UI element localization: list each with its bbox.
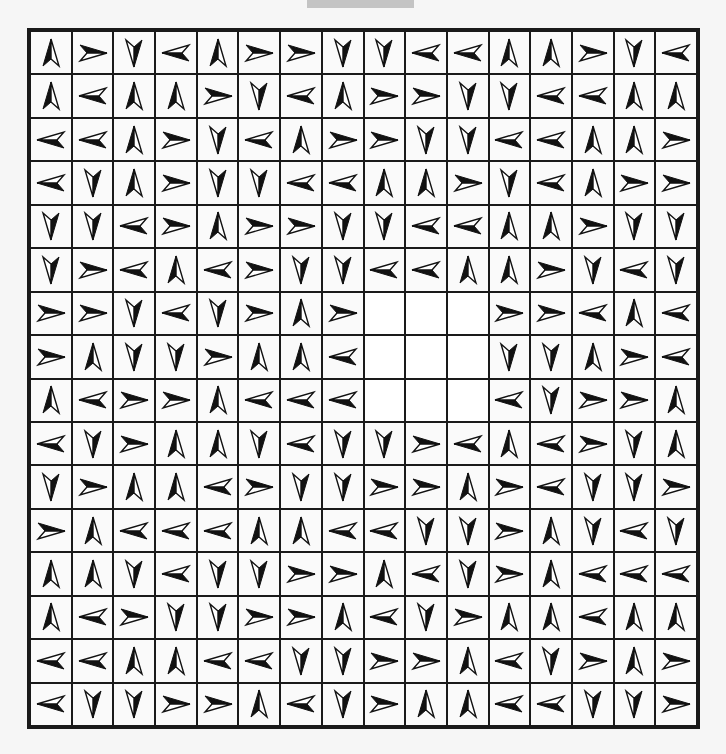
grid-cell[interactable] [490,206,530,247]
empty-cell[interactable] [448,336,488,377]
grid-cell[interactable] [31,32,71,73]
grid-cell[interactable] [365,684,405,725]
grid-cell[interactable] [615,640,655,681]
grid-cell[interactable] [323,380,363,421]
grid-cell[interactable] [239,119,279,160]
grid-cell[interactable] [656,640,696,681]
grid-cell[interactable] [198,466,238,507]
grid-cell[interactable] [656,119,696,160]
grid-cell[interactable] [198,206,238,247]
grid-cell[interactable] [573,32,613,73]
grid-cell[interactable] [573,75,613,116]
grid-cell[interactable] [656,380,696,421]
grid-cell[interactable] [406,510,446,551]
grid-cell[interactable] [406,162,446,203]
grid-cell[interactable] [490,32,530,73]
grid-cell[interactable] [239,380,279,421]
grid-cell[interactable] [656,206,696,247]
grid-cell[interactable] [365,206,405,247]
grid-cell[interactable] [490,249,530,290]
grid-cell[interactable] [406,119,446,160]
grid-cell[interactable] [323,75,363,116]
grid-cell[interactable] [656,597,696,638]
grid-cell[interactable] [615,553,655,594]
grid-cell[interactable] [531,293,571,334]
grid-cell[interactable] [531,597,571,638]
grid-cell[interactable] [31,510,71,551]
grid-cell[interactable] [156,162,196,203]
grid-cell[interactable] [365,640,405,681]
grid-cell[interactable] [114,380,154,421]
grid-cell[interactable] [281,553,321,594]
grid-cell[interactable] [281,119,321,160]
grid-cell[interactable] [656,466,696,507]
grid-cell[interactable] [531,206,571,247]
grid-cell[interactable] [615,336,655,377]
empty-cell[interactable] [406,293,446,334]
grid-cell[interactable] [615,119,655,160]
grid-cell[interactable] [448,119,488,160]
grid-cell[interactable] [656,553,696,594]
grid-cell[interactable] [323,119,363,160]
grid-cell[interactable] [490,336,530,377]
grid-cell[interactable] [239,684,279,725]
grid-cell[interactable] [448,640,488,681]
grid-cell[interactable] [281,336,321,377]
grid-cell[interactable] [114,162,154,203]
grid-cell[interactable] [31,206,71,247]
grid-cell[interactable] [31,684,71,725]
grid-cell[interactable] [239,553,279,594]
grid-cell[interactable] [490,162,530,203]
empty-cell[interactable] [365,293,405,334]
grid-cell[interactable] [406,32,446,73]
grid-cell[interactable] [448,162,488,203]
grid-cell[interactable] [156,423,196,464]
empty-cell[interactable] [448,293,488,334]
grid-cell[interactable] [365,466,405,507]
grid-cell[interactable] [406,75,446,116]
grid-cell[interactable] [448,32,488,73]
grid-cell[interactable] [156,380,196,421]
grid-cell[interactable] [114,75,154,116]
grid-cell[interactable] [114,423,154,464]
grid-cell[interactable] [198,336,238,377]
grid-cell[interactable] [573,510,613,551]
grid-cell[interactable] [156,640,196,681]
grid-cell[interactable] [31,553,71,594]
grid-cell[interactable] [531,336,571,377]
grid-cell[interactable] [573,423,613,464]
grid-cell[interactable] [323,597,363,638]
grid-cell[interactable] [281,32,321,73]
grid-cell[interactable] [531,32,571,73]
grid-cell[interactable] [490,597,530,638]
grid-cell[interactable] [73,597,113,638]
grid-cell[interactable] [114,119,154,160]
grid-cell[interactable] [31,466,71,507]
grid-cell[interactable] [198,249,238,290]
grid-cell[interactable] [114,597,154,638]
grid-cell[interactable] [239,466,279,507]
grid-cell[interactable] [239,423,279,464]
grid-cell[interactable] [73,119,113,160]
grid-cell[interactable] [531,684,571,725]
grid-cell[interactable] [239,597,279,638]
grid-cell[interactable] [198,380,238,421]
grid-cell[interactable] [656,32,696,73]
grid-cell[interactable] [490,423,530,464]
grid-cell[interactable] [323,32,363,73]
grid-cell[interactable] [156,510,196,551]
grid-cell[interactable] [114,293,154,334]
grid-cell[interactable] [531,423,571,464]
grid-cell[interactable] [531,640,571,681]
grid-cell[interactable] [31,597,71,638]
grid-cell[interactable] [365,553,405,594]
grid-cell[interactable] [490,380,530,421]
grid-cell[interactable] [531,553,571,594]
grid-cell[interactable] [239,75,279,116]
grid-cell[interactable] [406,553,446,594]
grid-cell[interactable] [573,597,613,638]
grid-cell[interactable] [281,206,321,247]
grid-cell[interactable] [448,75,488,116]
grid-cell[interactable] [281,466,321,507]
grid-cell[interactable] [73,162,113,203]
